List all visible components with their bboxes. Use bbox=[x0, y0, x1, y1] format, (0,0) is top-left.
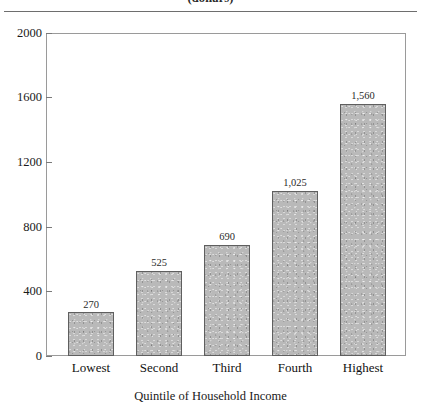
bar-value-highest: 1,560 bbox=[340, 91, 386, 102]
y-tick-0 bbox=[46, 356, 52, 357]
x-axis-title: Quintile of Household Income bbox=[0, 390, 421, 403]
bar-value-lowest: 270 bbox=[68, 300, 114, 311]
y-tick-1200 bbox=[46, 162, 52, 163]
bar-second[interactable] bbox=[136, 271, 182, 356]
bar-fourth[interactable] bbox=[272, 191, 318, 357]
x-label-highest: Highest bbox=[328, 361, 398, 374]
y-tick-800 bbox=[46, 227, 52, 228]
y-tick-label-0: 0 bbox=[0, 350, 42, 363]
x-label-fourth: Fourth bbox=[260, 361, 330, 374]
y-tick-label-1200: 1200 bbox=[0, 156, 42, 169]
header-divider bbox=[4, 11, 417, 12]
x-label-third: Third bbox=[192, 361, 262, 374]
bar-third[interactable] bbox=[204, 245, 250, 356]
y-tick-label-1600: 1600 bbox=[0, 91, 42, 104]
y-tick-1600 bbox=[46, 97, 52, 98]
x-label-lowest: Lowest bbox=[56, 361, 126, 374]
bar-lowest[interactable] bbox=[68, 312, 114, 356]
y-tick-400 bbox=[46, 291, 52, 292]
bar-highest[interactable] bbox=[340, 104, 386, 356]
y-tick-2000 bbox=[46, 33, 52, 34]
chart-units-caption: (dollars) bbox=[0, 0, 421, 6]
y-tick-label-400: 400 bbox=[0, 285, 42, 298]
y-tick-label-2000: 2000 bbox=[0, 27, 42, 40]
bar-value-fourth: 1,025 bbox=[272, 178, 318, 189]
y-tick-label-800: 800 bbox=[0, 221, 42, 234]
bar-chart-figure: (dollars) 2000 1600 1200 800 400 0 270 5… bbox=[0, 0, 421, 411]
bar-value-third: 690 bbox=[204, 232, 250, 243]
bar-value-second: 525 bbox=[136, 258, 182, 269]
x-label-second: Second bbox=[124, 361, 194, 374]
